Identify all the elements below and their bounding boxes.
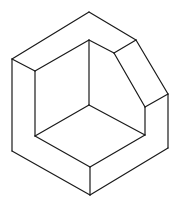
edge-outer-right-to-chamfer (136, 40, 168, 94)
edge-chamfer-top (114, 40, 136, 53)
figure-canvas (0, 0, 182, 200)
edge-inner-center-to-right (89, 105, 145, 135)
isometric-cutout-figure (0, 0, 182, 200)
edge-inner-right-to-bottom (90, 135, 145, 167)
edge-chamfer-to-top (89, 12, 136, 40)
edge-inner-left-to-inner-top (35, 40, 89, 71)
edge-chamfer-left (114, 53, 145, 107)
edge-chamfer-bottom (145, 94, 168, 107)
edge-inner-left-to-bottom (35, 136, 90, 167)
edge-outer-left-to-inner-left (12, 59, 35, 71)
edge-outer-left-to-bottom (12, 151, 90, 195)
edge-top-to-outer-left (12, 12, 89, 59)
edge-inner-top-to-chamfer-left (89, 40, 114, 53)
edge-bottom-to-outer-right (90, 148, 168, 195)
edge-inner-center-to-left (35, 105, 89, 136)
